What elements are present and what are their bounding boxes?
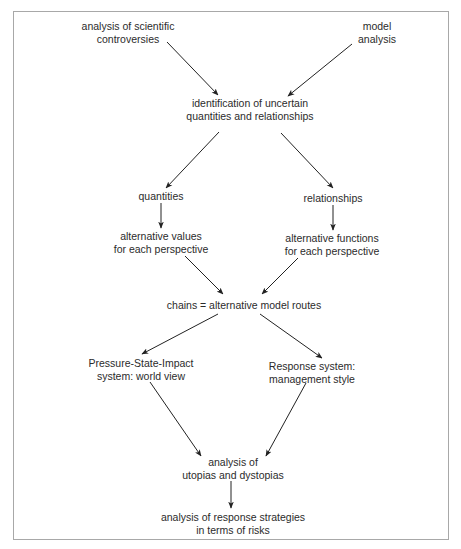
arrow-response-system-to-utopias <box>266 383 306 456</box>
node-relationships: relationships <box>304 192 363 205</box>
node-identification-of-uncertain-quantities: identification of uncertain quantities a… <box>186 97 313 122</box>
node-line: system: world view <box>88 370 193 383</box>
node-line: analysis of <box>182 456 284 469</box>
node-analysis-of-response-strategies: analysis of response strategies in terms… <box>161 511 305 536</box>
node-line: controversies <box>82 33 175 46</box>
node-response-system: Response system: management style <box>269 360 355 385</box>
arrow-identification-to-quantities <box>166 132 219 188</box>
arrow-alt-values-to-chains <box>185 256 223 294</box>
arrow-psi-system-to-utopias <box>150 382 201 456</box>
node-line: chains = alternative model routes <box>167 299 321 312</box>
arrow-chains-to-response-system <box>260 314 322 358</box>
node-analysis-of-utopias-and-dystopias: analysis of utopias and dystopias <box>182 456 284 481</box>
node-chains-alternative-model-routes: chains = alternative model routes <box>167 299 321 312</box>
node-line: for each perspective <box>285 245 380 258</box>
node-line: Pressure-State-Impact <box>88 357 193 370</box>
node-line: alternative functions <box>285 232 380 245</box>
node-quantities: quantities <box>139 190 184 203</box>
arrow-chains-to-psi-system <box>142 314 218 354</box>
node-line: Response system: <box>269 360 355 373</box>
node-alternative-values: alternative values for each perspective <box>114 230 209 255</box>
node-line: management style <box>269 373 355 386</box>
arrow-scientific-controversies-to-identification <box>167 42 218 95</box>
node-line: for each perspective <box>114 243 209 256</box>
node-pressure-state-impact-system: Pressure-State-Impact system: world view <box>88 357 193 382</box>
node-line: analysis of response strategies <box>161 511 305 524</box>
node-analysis-of-scientific-controversies: analysis of scientific controversies <box>82 20 175 45</box>
arrow-identification-to-relationships <box>281 133 333 188</box>
node-line: alternative values <box>114 230 209 243</box>
node-line: utopias and dystopias <box>182 469 284 482</box>
node-alternative-functions: alternative functions for each perspecti… <box>285 232 380 257</box>
node-line: in terms of risks <box>161 524 305 537</box>
node-model-analysis: model analysis <box>358 20 396 45</box>
node-line: relationships <box>304 192 363 205</box>
arrow-alt-functions-to-chains <box>262 258 298 294</box>
node-line: identification of uncertain <box>186 97 313 110</box>
node-line: analysis of scientific <box>82 20 175 33</box>
node-line: analysis <box>358 33 396 46</box>
arrow-model-analysis-to-identification <box>288 44 352 96</box>
node-line: quantities and relationships <box>186 110 313 123</box>
node-line: quantities <box>139 190 184 203</box>
node-line: model <box>358 20 396 33</box>
